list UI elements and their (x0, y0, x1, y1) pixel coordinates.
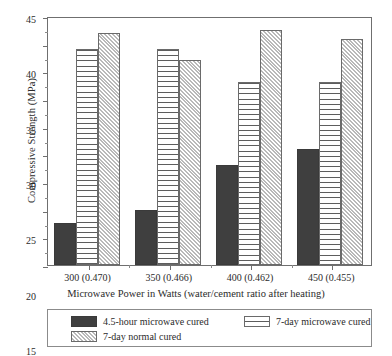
y-axis-minor-tick (45, 253, 48, 254)
y-axis-tick-label: 40 (10, 69, 36, 80)
y-axis-tick-label: 15 (10, 346, 36, 356)
bar (216, 165, 238, 265)
bar (238, 82, 260, 265)
legend-swatch-hlines-icon (244, 316, 270, 327)
y-axis-tick: 40 (43, 46, 48, 47)
legend-swatch-diag-icon (71, 331, 97, 342)
legend-entry: 4.5-hour microwave cured (71, 316, 209, 327)
y-axis-minor-tick (45, 87, 48, 88)
x-axis-minor-tick (129, 265, 130, 268)
y-axis-minor-tick (45, 143, 48, 144)
y-axis-tick: 5 (43, 239, 48, 240)
y-axis-tick: 10 (43, 212, 48, 213)
y-axis-minor-tick (45, 226, 48, 227)
legend-swatch-solid-icon (71, 316, 97, 327)
bar (319, 82, 341, 265)
y-axis-minor-tick (45, 32, 48, 33)
x-axis-tick-label: 400 (0.462) (227, 272, 274, 283)
x-axis-tick (332, 265, 333, 270)
y-axis-minor-tick (45, 60, 48, 61)
legend-entry: 7-day microwave cured (244, 316, 370, 327)
y-axis-minor-tick (45, 115, 48, 116)
x-axis-tick (89, 265, 90, 270)
y-axis-tick-label: 25 (10, 235, 36, 246)
y-axis-minor-tick (45, 198, 48, 199)
y-axis-tick-label: 30 (10, 180, 36, 191)
y-axis-tick: 25 (43, 129, 48, 130)
bar (157, 49, 179, 265)
x-axis-tick (251, 265, 252, 270)
legend-label: 4.5-hour microwave cured (103, 316, 209, 327)
x-axis-tick-label: 450 (0.455) (308, 272, 355, 283)
bar-group (54, 18, 120, 265)
x-axis-tick (170, 265, 171, 270)
bar-group (297, 18, 363, 265)
y-axis-tick-label: 45 (10, 14, 36, 25)
y-axis-minor-tick (45, 170, 48, 171)
x-axis-tick-label: 300 (0.470) (64, 272, 111, 283)
bar-group (216, 18, 282, 265)
x-axis-minor-tick (211, 265, 212, 268)
x-axis-tick-label: 350 (0.466) (146, 272, 193, 283)
y-axis-tick: 35 (43, 73, 48, 74)
bar (135, 210, 157, 265)
plot-inner: 051015202530354045 (48, 18, 371, 265)
legend-label: 7-day microwave cured (276, 316, 370, 327)
bar (54, 223, 76, 265)
bar (98, 33, 120, 265)
bar (297, 149, 319, 265)
bar-group (135, 18, 201, 265)
x-axis-minor-tick (292, 265, 293, 268)
y-axis-tick: 0 (43, 267, 48, 268)
chart-legend: 4.5-hour microwave cured 7-day microwave… (47, 309, 372, 347)
y-axis-tick: 20 (43, 156, 48, 157)
y-axis-title: Compressive Strength (MPa) (26, 36, 37, 246)
bar (76, 49, 98, 265)
chart-figure: Compressive Strength (MPa) 0510152025303… (0, 0, 392, 356)
y-axis-tick: 45 (43, 18, 48, 19)
plot-area: 051015202530354045 (47, 17, 372, 266)
y-axis-tick: 30 (43, 101, 48, 102)
x-axis-title: Microwave Power in Watts (water/cement r… (0, 288, 392, 299)
bar (260, 30, 282, 265)
y-axis-tick: 15 (43, 184, 48, 185)
bar (341, 39, 363, 265)
bar (179, 60, 201, 265)
legend-label: 7-day normal cured (103, 331, 181, 342)
legend-entry: 7-day normal cured (71, 331, 181, 342)
y-axis-tick-label: 35 (10, 124, 36, 135)
